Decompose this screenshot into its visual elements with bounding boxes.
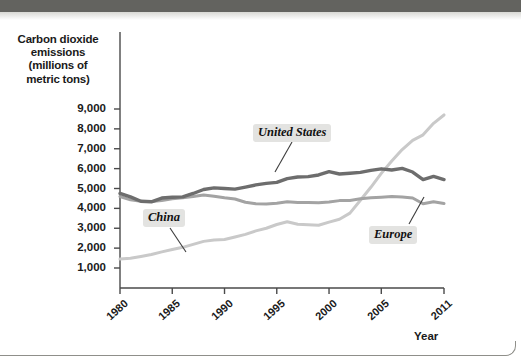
- chart-plot-area: [0, 0, 521, 359]
- series-label-europe: Europe: [369, 226, 417, 244]
- figure-container: Carbon dioxide emissions (millions of me…: [0, 0, 521, 359]
- series-label-china: China: [143, 209, 185, 227]
- x-axis-title: Year: [414, 330, 438, 342]
- series-label-united-states: United States: [253, 124, 331, 142]
